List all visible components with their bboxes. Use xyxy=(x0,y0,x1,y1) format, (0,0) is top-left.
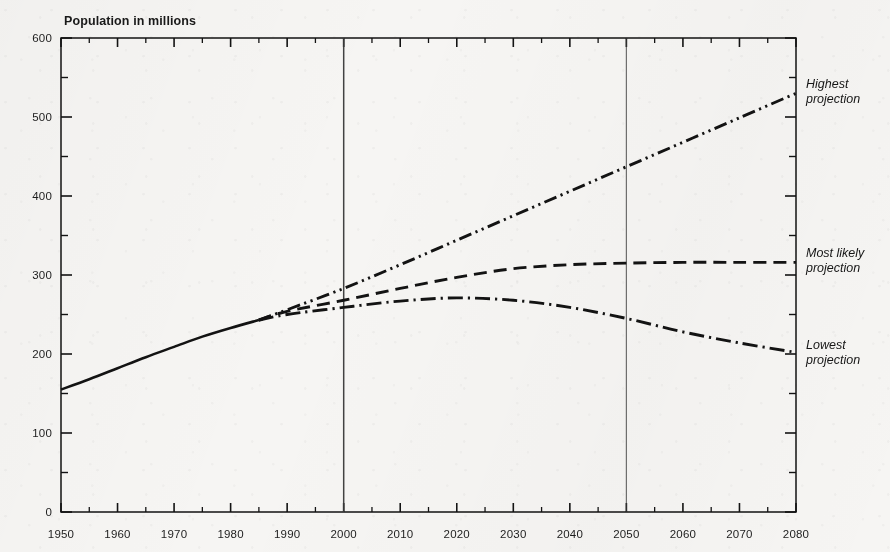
series-label-most-likely-line2: projection xyxy=(806,261,860,275)
series-line-highest-projection xyxy=(259,93,796,320)
axis-tick-marks xyxy=(61,38,796,512)
data-series-lines xyxy=(61,93,796,389)
series-label-highest-line2: projection xyxy=(806,92,860,106)
series-line-historical xyxy=(61,320,259,390)
series-line-lowest-projection xyxy=(259,298,796,353)
series-label-lowest-line1: Lowest xyxy=(806,338,846,352)
series-label-highest-line1: Highest xyxy=(806,77,848,91)
series-label-lowest-line2: projection xyxy=(806,353,860,367)
series-label-most-likely-line1: Most likely xyxy=(806,246,864,260)
plot-area xyxy=(0,0,890,552)
series-label-highest-projection: Highest projection xyxy=(806,77,860,107)
population-projection-chart: Population in millions 01002003004005006… xyxy=(0,0,890,552)
vertical-gridlines xyxy=(344,38,627,512)
series-label-most-likely-projection: Most likely projection xyxy=(806,246,864,276)
axis-frame xyxy=(61,38,796,512)
series-line-most-likely-projection xyxy=(259,262,796,320)
series-label-lowest-projection: Lowest projection xyxy=(806,338,860,368)
